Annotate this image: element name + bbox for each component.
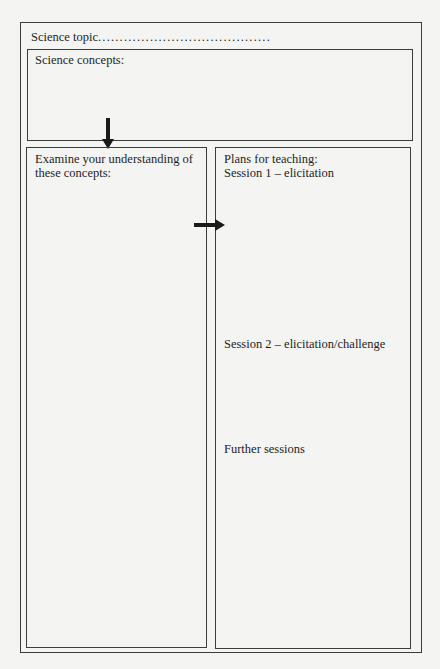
science-topic-field[interactable]: Science topic...........................… (31, 30, 271, 44)
science-topic-label: Science topic (31, 30, 98, 44)
plans-for-teaching-box[interactable] (215, 147, 411, 649)
arrow-right-icon (194, 223, 216, 227)
science-concepts-label: Science concepts: (35, 53, 124, 67)
session-2-label: Session 2 – elicitation/challenge (224, 337, 385, 351)
examine-understanding-label: Examine your understanding of these conc… (35, 152, 203, 180)
science-topic-blank[interactable]: ........................................ (98, 30, 271, 44)
plans-for-teaching-label: Plans for teaching: (224, 152, 318, 166)
arrow-down-icon (106, 118, 110, 140)
session-1-label: Session 1 – elicitation (224, 166, 334, 180)
further-sessions-label: Further sessions (224, 442, 305, 456)
arrow-right-icon-head (215, 219, 225, 231)
examine-understanding-box[interactable] (26, 147, 207, 648)
